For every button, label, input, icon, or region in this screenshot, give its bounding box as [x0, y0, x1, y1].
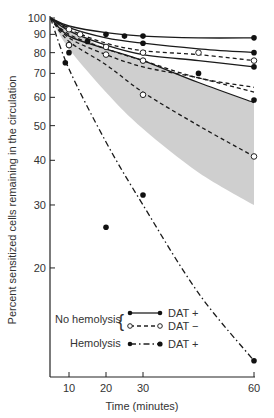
- data-point-open: [103, 52, 109, 58]
- data-point-filled: [85, 39, 91, 45]
- legend-marker-open: [158, 324, 163, 329]
- data-point-filled: [251, 50, 257, 56]
- legend: No hemolysis { DAT + DAT − Hemolysis DAT…: [55, 307, 198, 350]
- data-point-open: [251, 154, 257, 160]
- legend-marker-filled: [158, 311, 163, 316]
- legend-marker-filled: [128, 311, 133, 316]
- data-point-filled: [103, 224, 109, 230]
- data-point-open: [140, 50, 146, 56]
- legend-brace: {: [118, 311, 124, 331]
- data-point-filled: [251, 35, 257, 41]
- data-point-filled: [251, 97, 257, 103]
- x-tick-label: 10: [63, 382, 75, 394]
- data-point-open: [77, 32, 83, 38]
- legend-marker-open: [128, 324, 133, 329]
- y-tick-label: 70: [34, 67, 46, 79]
- legend-dat-neg: DAT −: [168, 320, 198, 332]
- data-point-open: [140, 58, 146, 64]
- y-ticks: 1009080706050403020: [28, 12, 55, 274]
- data-point-filled: [251, 64, 257, 70]
- chart: 1009080706050403020 10203060 Time (minut…: [0, 0, 274, 418]
- y-tick-label: 90: [34, 28, 46, 40]
- data-point-filled: [140, 192, 146, 198]
- data-point-filled: [140, 33, 146, 39]
- y-tick-label: 100: [28, 12, 46, 24]
- y-tick-label: 20: [34, 262, 46, 274]
- legend-marker-filled: [128, 342, 133, 347]
- legend-no-hemolysis-label: No hemolysis: [55, 313, 122, 325]
- legend-dat-pos-1: DAT +: [168, 307, 198, 319]
- y-tick-label: 30: [34, 199, 46, 211]
- data-point-filled: [63, 60, 69, 66]
- data-point-open: [140, 92, 146, 98]
- data-point-filled: [140, 40, 146, 46]
- x-axis-title: Time (minutes): [106, 400, 179, 412]
- data-point-open: [251, 58, 257, 64]
- data-point-filled: [103, 32, 109, 38]
- x-tick-label: 30: [137, 382, 149, 394]
- y-tick-label: 40: [34, 154, 46, 166]
- legend-dat-pos-2: DAT +: [168, 338, 198, 350]
- y-axis-title: Percent sensitized cells remaining in th…: [6, 76, 18, 325]
- data-point-filled: [122, 33, 128, 39]
- data-point-filled: [251, 358, 257, 364]
- y-tick-label: 50: [34, 120, 46, 132]
- data-point-open: [196, 50, 202, 56]
- legend-marker-filled: [157, 341, 162, 346]
- data-point-filled: [66, 50, 72, 56]
- y-tick-label: 60: [34, 91, 46, 103]
- legend-hemolysis-label: Hemolysis: [70, 337, 121, 349]
- x-tick-label: 60: [248, 382, 260, 394]
- x-tick-label: 20: [100, 382, 112, 394]
- data-point-open: [103, 44, 109, 50]
- y-tick-label: 80: [34, 47, 46, 59]
- data-point-filled: [196, 71, 202, 77]
- x-ticks: 10203060: [63, 372, 260, 394]
- grey-envelope: [51, 18, 255, 205]
- data-point-open: [66, 26, 72, 32]
- shaded-band: [51, 18, 255, 205]
- data-point-open: [66, 42, 72, 48]
